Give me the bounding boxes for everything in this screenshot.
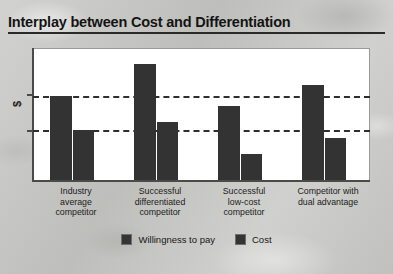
legend-label: Willingness to pay [138,234,215,245]
bar-cost-dual-advantage [325,138,346,180]
legend-swatch-icon [235,234,246,245]
chart-legend: Willingness to pay Cost [0,234,393,245]
legend-swatch-icon [121,234,132,245]
bar-willingness-to-pay-differentiated [134,64,156,180]
legend-item-willingness-to-pay: Willingness to pay [121,234,215,245]
x-axis-line [32,180,370,182]
legend-item-cost: Cost [235,234,272,245]
bar-cost-industry-average [73,130,94,180]
bar-chart: $ Industryaveragecompetitor Successfuldi… [0,40,393,274]
bar-cost-low-cost [241,154,262,180]
x-axis-category-label: Successfullow-costcompetitor [196,186,292,218]
y-axis-line [32,48,34,181]
x-axis-category-label: Successfuldifferentiatedcompetitor [112,186,208,218]
legend-label: Cost [252,234,272,245]
figure-container: Interplay between Cost and Differentiati… [0,0,393,274]
figure-title-bar: Interplay between Cost and Differentiati… [8,13,385,35]
bar-willingness-to-pay-industry-average [50,96,72,180]
bar-cost-differentiated [157,122,178,180]
bar-willingness-to-pay-dual-advantage [302,85,324,180]
y-axis-label: $ [11,95,23,113]
x-axis-category-label: Industryaveragecompetitor [28,186,124,218]
page-title: Interplay between Cost and Differentiati… [8,13,385,31]
title-divider [8,32,385,34]
x-axis-category-label: Competitor withdual advantage [280,186,376,207]
bar-willingness-to-pay-low-cost [218,106,240,180]
